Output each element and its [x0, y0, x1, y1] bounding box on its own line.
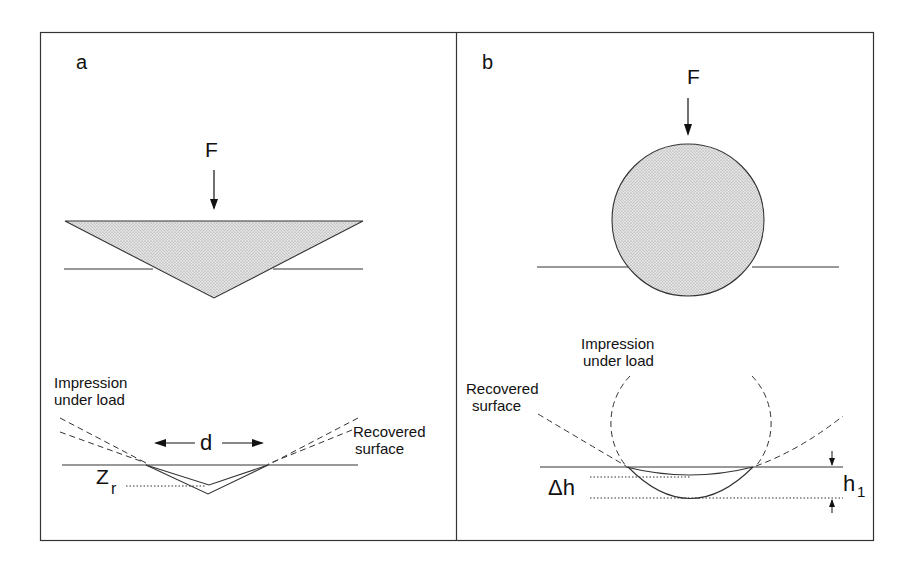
panel-a-label: a	[76, 51, 88, 73]
recovered-profile-a	[146, 465, 268, 485]
h1-arrowhead-top	[829, 458, 835, 466]
impression-under-load-profile-a	[146, 465, 268, 494]
h1-label: h	[843, 471, 855, 496]
diameter-arrowhead-left	[154, 439, 166, 447]
impression-label-b-line2: under load	[583, 352, 654, 369]
impression-dashed-right	[268, 418, 358, 465]
impression-dashed-left	[60, 418, 148, 464]
panel-b: b F Impression under load Recovered surf…	[466, 51, 865, 513]
impression-label-a-line2: under load	[54, 391, 125, 408]
recovered-dashed-right	[268, 430, 352, 464]
recovered-label-a: Recovered	[353, 423, 426, 440]
diameter-label: d	[200, 430, 212, 455]
diameter-arrowhead-right	[252, 439, 264, 447]
recovered-label-b-line2: surface	[472, 397, 521, 414]
impression-label-b: Impression	[581, 335, 654, 352]
recovered-dashed-left	[60, 432, 146, 463]
impression-dashed-circle	[611, 376, 630, 466]
delta-h-label: Δh	[548, 475, 575, 500]
conical-indenter	[65, 221, 363, 298]
depth-label-zr: Z	[96, 465, 109, 488]
recovered-profile-b	[626, 467, 753, 475]
panel-a: a F Impression under load Recovered surf…	[54, 51, 426, 497]
recovered-label-a-line2: surface	[355, 440, 404, 457]
h1-arrowhead-bottom	[829, 499, 835, 507]
spherical-indenter	[612, 144, 764, 296]
recovered-dashed-left-b	[538, 414, 626, 466]
h1-label-sub: 1	[857, 483, 865, 500]
depth-label-zr-sub: r	[111, 480, 117, 497]
impression-label-a: Impression	[54, 374, 127, 391]
force-arrowhead-a	[210, 199, 218, 210]
force-label-b: F	[687, 65, 700, 88]
force-label-a: F	[205, 138, 218, 161]
recovered-label-b: Recovered	[466, 380, 539, 397]
indentation-diagram: a F Impression under load Recovered surf…	[0, 0, 914, 566]
panel-b-label: b	[482, 51, 493, 73]
force-arrowhead-b	[684, 124, 692, 136]
impression-dashed-circle-right	[752, 376, 771, 466]
